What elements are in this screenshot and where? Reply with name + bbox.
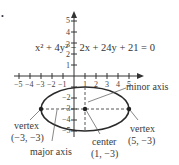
x-tick-label: 3	[105, 81, 109, 89]
vertex-right-leader	[130, 110, 138, 120]
x-tick-label: 1	[83, 81, 87, 89]
y-tick-label: −3	[62, 105, 71, 113]
vertex-left-leader	[30, 110, 40, 120]
center-label: center	[92, 137, 116, 147]
y-tick-label: 5	[66, 17, 70, 25]
equation-label: x² + 4y² − 2x + 24y + 21 = 0	[35, 42, 155, 53]
y-axis-arrow	[71, 11, 77, 18]
minor-axis-label: minor axis	[126, 82, 169, 92]
major-axis-label: major axis	[30, 147, 72, 157]
vertex-left-label: vertex	[14, 121, 39, 131]
x-tick-label: −1	[58, 81, 67, 89]
x-axis-arrow	[137, 73, 144, 79]
y-tick-label: 1	[66, 62, 70, 70]
x-tick-label: 4	[116, 81, 120, 89]
x-tick-label: −2	[47, 81, 56, 89]
y-tick-label: 2	[66, 51, 70, 59]
x-tick-label: −3	[36, 81, 45, 89]
x-tick-label: −5	[14, 81, 23, 89]
vertex-right-coords: (5, −3)	[128, 136, 155, 146]
x-tick-label: 2	[94, 81, 98, 89]
x-tick-label: −4	[25, 81, 34, 89]
y-tick-label: −2	[62, 94, 71, 102]
vertex-left-coords: (−3, −3)	[11, 133, 44, 143]
y-tick-label: 4	[66, 29, 70, 37]
y-tick-label: 3	[66, 41, 70, 49]
y-tick-label: −5	[62, 127, 71, 135]
vertex-right-label: vertex	[130, 124, 155, 134]
center-coords: (1, −3)	[91, 149, 118, 159]
y-tick-label: −4	[62, 116, 71, 124]
